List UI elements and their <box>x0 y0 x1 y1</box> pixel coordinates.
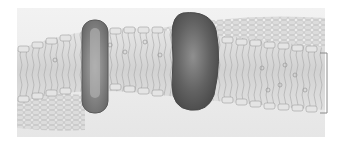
protein-channel <box>90 28 100 98</box>
large-transmembrane-protein <box>172 13 219 111</box>
membrane-diagram <box>0 0 339 145</box>
membrane-figure <box>0 0 339 145</box>
